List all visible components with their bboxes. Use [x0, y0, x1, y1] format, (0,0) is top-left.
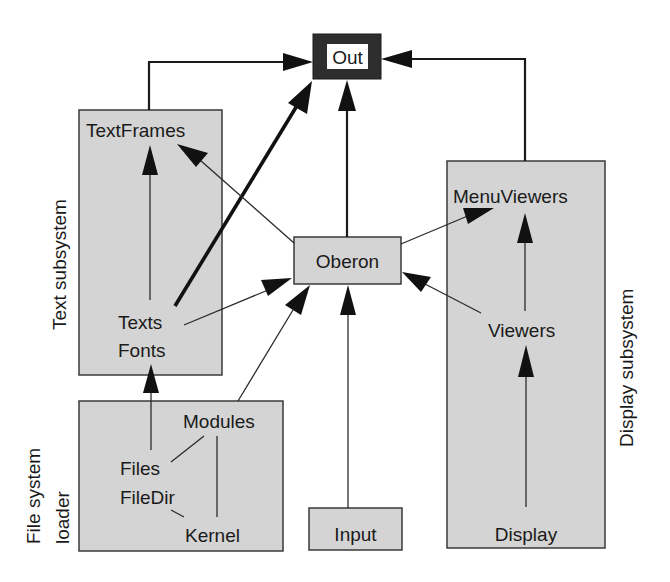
label-file-system: File system [23, 448, 44, 544]
node-viewers: Viewers [488, 320, 555, 341]
label-loader: loader [52, 491, 73, 544]
node-input: Input [334, 524, 377, 545]
node-display: Display [495, 524, 558, 545]
edge-input-to-oberon [340, 285, 356, 508]
edge-display-subsystem-to-out [381, 50, 525, 161]
edge-text-subsystem-to-out [149, 53, 313, 110]
node-modules: Modules [183, 411, 255, 432]
node-fonts: Fonts [118, 340, 166, 361]
label-display-subsystem: Display subsystem [616, 289, 637, 447]
oberon-module-diagram: Out TextFrames Texts Fonts Oberon MenuVi… [0, 0, 670, 582]
node-menuviewers: MenuViewers [453, 186, 568, 207]
node-oberon: Oberon [316, 251, 379, 272]
node-texts: Texts [118, 312, 162, 333]
node-files: Files [120, 458, 160, 479]
node-filedir: FileDir [120, 487, 176, 508]
label-text-subsystem: Text subsystem [49, 199, 70, 330]
edge-oberon-to-out [338, 80, 356, 237]
edge-modules-to-oberon [238, 285, 310, 401]
node-kernel: Kernel [185, 525, 240, 546]
node-out: Out [332, 47, 363, 68]
node-textframes: TextFrames [86, 120, 185, 141]
